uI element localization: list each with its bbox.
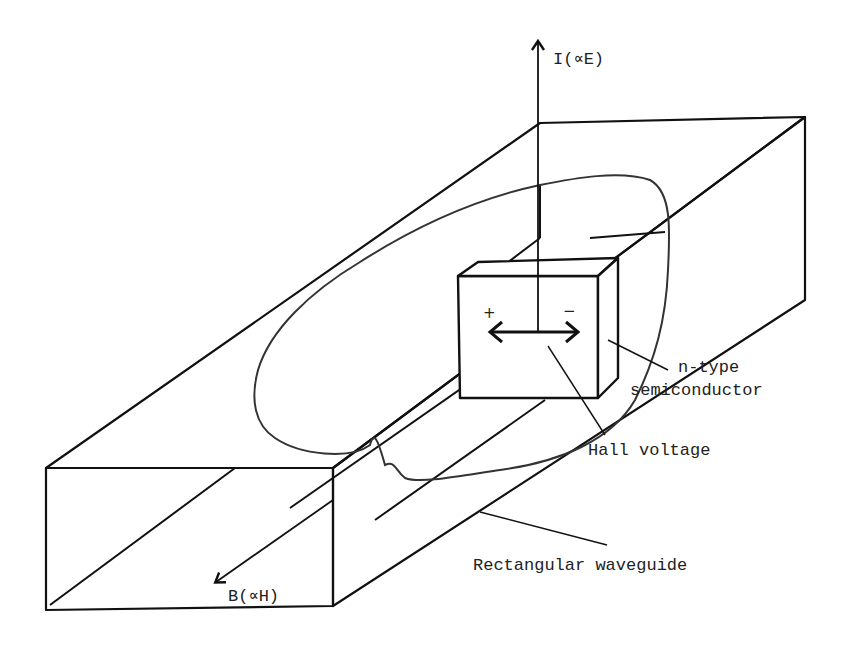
semiconductor-label-line1: n-type <box>678 358 739 377</box>
plus-sign: + <box>483 304 496 322</box>
semiconductor-label-line2: semiconductor <box>630 381 763 400</box>
waveguide-front-face <box>46 468 333 610</box>
magnetic-field-arrow <box>216 500 333 582</box>
hall-voltage-label: Hall voltage <box>588 441 710 460</box>
current-label: I(∝E) <box>553 50 604 69</box>
hall-effect-waveguide-diagram: + − I(∝E) n-type semiconductor Hall volt… <box>0 0 853 645</box>
diagram-svg: + − I(∝E) n-type semiconductor Hall volt… <box>0 0 853 645</box>
waveguide-top-face <box>46 117 805 468</box>
waveguide-label: Rectangular waveguide <box>473 556 687 575</box>
waveguide-leader <box>480 512 607 545</box>
magnetic-field-label: B(∝H) <box>228 587 279 606</box>
minus-sign: − <box>563 302 576 320</box>
